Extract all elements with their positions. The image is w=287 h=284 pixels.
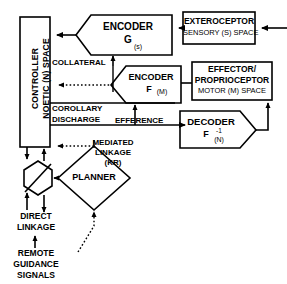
label-direct-linkage-line1: DIRECT — [5, 212, 67, 221]
decoder-superscript: -1 — [188, 128, 250, 135]
edge-remote-guidance-dotted — [78, 212, 94, 252]
diagram-canvas: CONTROLLER NOETIC (N) SPACE ENCODER G (s… — [0, 0, 287, 284]
label-collateral: COLLATERAL — [52, 59, 132, 67]
label-efference: EFFERENCE — [115, 117, 185, 125]
effector-label-line3: MOTOR (M) SPACE — [192, 87, 272, 95]
planner-label: PLANNER — [64, 173, 124, 182]
label-remote-line1: REMOTE — [5, 249, 67, 258]
encoder-g-label: ENCODER — [86, 22, 170, 33]
label-remote-line3: SIGNALS — [5, 271, 67, 280]
controller-label-line2: NOETIC (N) SPACE — [42, 16, 51, 140]
encoder-f-subscript: (M) — [131, 88, 193, 95]
encoder-g-subscript: (s) — [96, 43, 180, 50]
label-mediated-linkage-line3: (KR) — [78, 159, 148, 167]
edge-decoder-to-effector — [256, 103, 268, 130]
label-remote-line2: GUIDANCE — [5, 260, 67, 269]
effector-label-line1: EFFECTOR/ — [192, 65, 272, 74]
effector-label-line2: PROPRIOCEPTOR — [192, 76, 272, 85]
decoder-subscript: (N) — [188, 136, 250, 143]
exteroceptor-label-line1: EXTEROCEPTOR — [183, 17, 255, 26]
encoder-f-label: ENCODER — [120, 73, 182, 82]
decoder-label: DECODER — [180, 117, 242, 127]
label-direct-linkage-line2: LINKAGE — [5, 223, 67, 232]
label-corollary: COROLLARY — [52, 105, 132, 113]
label-mediated-linkage-line2: LINKAGE — [78, 149, 148, 157]
controller-label-line1: CONTROLLER — [31, 16, 40, 140]
label-mediated-linkage-line1: MEDIATED — [78, 139, 148, 147]
exteroceptor-label-line2: SENSORY (S) SPACE — [183, 29, 255, 37]
